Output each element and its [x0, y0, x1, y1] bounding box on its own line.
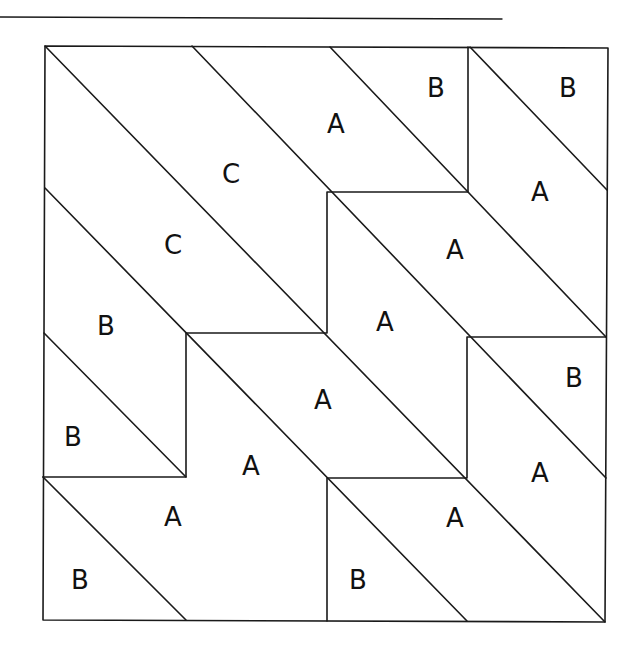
- piece-label: A: [446, 503, 464, 533]
- piece-label: A: [164, 502, 182, 532]
- piece-label: B: [71, 565, 89, 595]
- piece-label: A: [446, 235, 464, 265]
- piece-label: A: [314, 385, 332, 415]
- piece-label: A: [242, 451, 260, 481]
- piece-label: A: [327, 109, 345, 139]
- diagonal-line: [43, 477, 186, 620]
- piece-label: B: [559, 73, 577, 103]
- quilt-diagram: B B A C A C A B A B A B A A A A B B: [0, 0, 633, 651]
- piece-label: C: [222, 159, 240, 189]
- header-rule: [0, 17, 502, 19]
- piece-labels: B B A C A C A B A B A B A A A A B B: [64, 73, 583, 595]
- piece-label: B: [427, 73, 445, 103]
- diagonal-line: [45, 46, 605, 622]
- diagonal-line: [45, 188, 467, 621]
- piece-label: B: [565, 363, 583, 393]
- piece-label: A: [531, 458, 549, 488]
- diagonal-line: [470, 47, 607, 190]
- piece-label: A: [531, 177, 549, 207]
- piece-label: A: [376, 307, 394, 337]
- diagonal-line: [44, 333, 186, 477]
- piece-label: B: [64, 422, 82, 452]
- piece-label: C: [164, 230, 182, 260]
- piece-label: B: [97, 311, 115, 341]
- piece-label: B: [349, 565, 367, 595]
